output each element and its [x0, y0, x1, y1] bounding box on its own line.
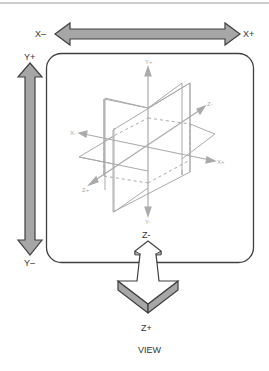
inner-x-minus-label: X-: [70, 130, 76, 136]
inner-x-plus-label: X+: [217, 159, 225, 165]
y-axis-arrowhead-down: [145, 207, 151, 216]
view-orientation-diagram: X– X+ Y+ Y–: [0, 0, 269, 371]
inner-z-minus-label: Z-: [207, 101, 213, 107]
axis-lines: [79, 67, 215, 216]
inner-y-plus-label: Y+: [145, 59, 153, 65]
z-axis-arrowhead-front: [89, 177, 98, 185]
inner-z-plus-label: Z+: [82, 187, 90, 193]
inner-y-minus-label: Y-: [145, 219, 150, 225]
x-axis-arrowhead-right: [206, 157, 215, 163]
y-plus-label: Y+: [24, 52, 35, 62]
x-axis-double-arrow: [55, 23, 240, 45]
x-axis-arrowhead-left: [79, 131, 87, 137]
z-axis-arrowhead-back: [197, 106, 205, 114]
y-axis-double-arrow: [18, 63, 42, 255]
view-label: VIEW: [138, 345, 162, 355]
y-minus-label: Y–: [24, 258, 35, 268]
y-axis-arrowhead-up: [145, 67, 151, 76]
z-minus-label: Z-: [142, 230, 151, 240]
x-axis-line: [84, 134, 210, 160]
visible-edges: [79, 108, 182, 212]
z-plus-label: Z+: [141, 323, 152, 333]
x-minus-label: X–: [35, 29, 46, 39]
x-plus-label: X+: [243, 29, 254, 39]
